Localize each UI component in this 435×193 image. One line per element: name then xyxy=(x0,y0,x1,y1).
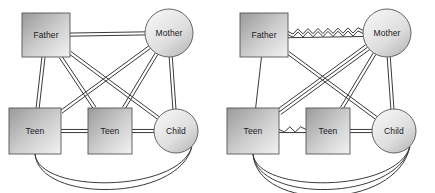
edge-straight-segment xyxy=(279,47,368,112)
edge-straight-segment xyxy=(169,57,173,109)
edge-father-teen1 xyxy=(39,57,45,108)
edge-straight-segment xyxy=(70,35,145,36)
node-label-teen2: Teen xyxy=(319,126,338,136)
edge-mother-teen2 xyxy=(343,54,376,108)
node-label-teen1: Teen xyxy=(26,126,45,136)
node-label-father: Father xyxy=(33,30,58,40)
figure-root: FatherMotherTeenTeenChild FatherMotherTe… xyxy=(0,0,435,193)
node-label-teen1: Teen xyxy=(244,126,263,136)
edge-father-mother xyxy=(70,32,145,33)
edge-straight-segment xyxy=(341,53,374,107)
edge-straight-segment xyxy=(387,57,391,109)
node-father[interactable]: Father xyxy=(240,13,288,57)
edge-father-teen1 xyxy=(36,57,42,108)
right-diagram-panel: FatherMotherTeenTeenChild xyxy=(218,0,435,193)
edge-mother-teen1 xyxy=(277,45,366,110)
edge-straight-segment xyxy=(125,54,158,108)
edge-mother-teen1 xyxy=(279,47,368,112)
edge-father-teen2 xyxy=(62,56,96,107)
edge-mother-teen2 xyxy=(341,53,374,107)
node-father[interactable]: Father xyxy=(22,13,70,57)
node-label-mother: Mother xyxy=(373,28,400,38)
node-teen1[interactable]: Teen xyxy=(9,108,61,154)
node-mother[interactable]: Mother xyxy=(145,9,193,57)
node-layer: FatherMotherTeenTeenChild xyxy=(9,9,198,154)
edge-straight-segment xyxy=(390,57,394,109)
node-teen1[interactable]: Teen xyxy=(227,108,279,154)
node-teen2[interactable]: Teen xyxy=(88,108,132,154)
left-diagram-panel: FatherMotherTeenTeenChild xyxy=(0,0,217,193)
node-label-child: Child xyxy=(384,126,404,136)
edge-father-child xyxy=(289,51,377,116)
edge-straight-segment xyxy=(59,58,93,109)
edge-straight-segment xyxy=(62,56,96,107)
node-label-mother: Mother xyxy=(155,28,182,38)
edge-straight-segment xyxy=(288,36,363,37)
edge-mother-teen2 xyxy=(125,54,158,108)
edge-straight-segment xyxy=(256,57,262,108)
node-label-child: Child xyxy=(166,126,186,136)
edge-teen1-teen2 xyxy=(279,127,306,132)
node-child[interactable]: Child xyxy=(372,109,416,153)
edge-father-mother xyxy=(288,36,363,37)
edge-mother-child xyxy=(172,57,176,109)
edge-straight-segment xyxy=(172,57,176,109)
edge-mother-child xyxy=(387,57,391,109)
edge-father-child xyxy=(71,51,159,116)
edge-straight-segment xyxy=(36,57,42,108)
node-mother[interactable]: Mother xyxy=(363,9,411,57)
node-label-teen2: Teen xyxy=(101,126,120,136)
edge-father-mother xyxy=(70,35,145,36)
edge-straight-segment xyxy=(277,45,366,110)
edge-straight-segment xyxy=(70,32,145,33)
node-teen2[interactable]: Teen xyxy=(306,108,350,154)
edge-zigzag-segment xyxy=(279,127,306,132)
right-diagram-svg: FatherMotherTeenTeenChild xyxy=(218,0,435,193)
edge-straight-segment xyxy=(71,51,159,116)
edge-straight-segment xyxy=(343,54,376,108)
edge-father-teen2 xyxy=(59,58,93,109)
edge-straight-segment xyxy=(39,57,45,108)
node-child[interactable]: Child xyxy=(154,109,198,153)
edge-straight-segment xyxy=(289,51,377,116)
left-diagram-svg: FatherMotherTeenTeenChild xyxy=(0,0,217,193)
edge-mother-child xyxy=(169,57,173,109)
edge-father-teen1 xyxy=(256,57,262,108)
node-label-father: Father xyxy=(251,30,276,40)
edge-mother-child xyxy=(390,57,394,109)
